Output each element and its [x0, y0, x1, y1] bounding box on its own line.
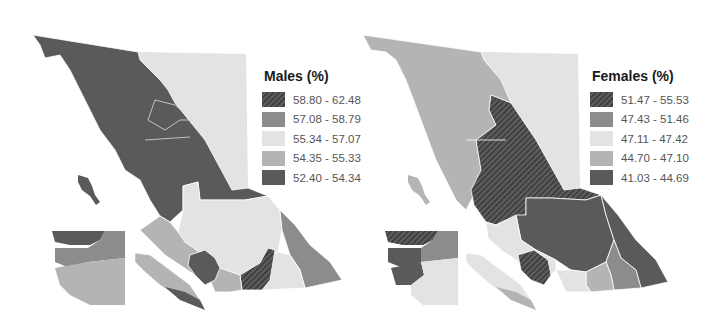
- legend-swatch: [262, 112, 285, 127]
- legend-swatch: [590, 170, 613, 185]
- region-thompson: [556, 270, 591, 292]
- legend-swatch: [590, 151, 613, 166]
- inset-lower-mainland: [383, 230, 458, 305]
- legend-item: 47.43 - 51.46: [590, 110, 689, 130]
- region-haida-gwaii: [78, 175, 100, 205]
- legend-item: 51.47 - 55.53: [590, 90, 689, 110]
- legend-item: 41.03 - 44.69: [590, 168, 689, 188]
- legend-swatch: [590, 131, 613, 146]
- males-map-panel: Males (%) 58.80 - 62.48 57.08 - 58.79 55…: [0, 0, 356, 329]
- legend-item: 47.11 - 47.42: [590, 129, 689, 149]
- females-legend: Females (%) 51.47 - 55.53 47.43 - 51.46 …: [590, 68, 689, 188]
- legend-item: 52.40 - 54.34: [262, 168, 361, 188]
- males-legend-title: Males (%): [264, 68, 361, 84]
- legend-swatch: [262, 151, 285, 166]
- legend-swatch: [262, 170, 285, 185]
- legend-item: 54.35 - 55.33: [262, 149, 361, 169]
- legend-item: 44.70 - 47.10: [590, 149, 689, 169]
- legend-item: 58.80 - 62.48: [262, 90, 361, 110]
- region-haida-gwaii: [408, 175, 430, 205]
- legend-swatch: [262, 131, 285, 146]
- legend-item: 55.34 - 57.07: [262, 129, 361, 149]
- legend-swatch-hatched: [262, 92, 285, 107]
- inset-lower-mainland: [50, 230, 125, 305]
- females-legend-title: Females (%): [592, 68, 689, 84]
- legend-item: 57.08 - 58.79: [262, 110, 361, 130]
- females-map-panel: Females (%) 51.47 - 55.53 47.43 - 51.46 …: [356, 0, 712, 329]
- legend-swatch-hatched: [590, 92, 613, 107]
- legend-swatch: [590, 112, 613, 127]
- males-legend: Males (%) 58.80 - 62.48 57.08 - 58.79 55…: [262, 68, 361, 188]
